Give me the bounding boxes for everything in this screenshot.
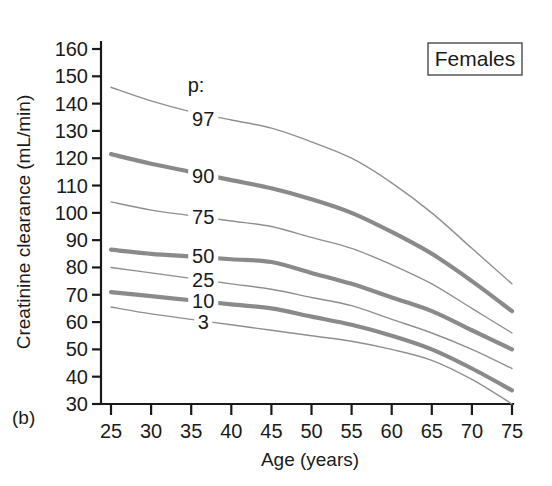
- x-tick-label: 25: [100, 420, 122, 442]
- y-tick-label: 110: [56, 175, 88, 197]
- y-tick-label: 50: [66, 338, 88, 360]
- x-axis-ticks: 2530354045505560657075: [100, 404, 523, 442]
- y-tick-label: 70: [66, 284, 88, 306]
- x-axis-title: Age (years): [261, 449, 359, 470]
- x-tick-label: 65: [421, 420, 443, 442]
- creatinine-clearance-chart: Creatinine clearance (mL/min) Age (years…: [0, 0, 552, 486]
- percentile-label-3: 3: [198, 311, 209, 333]
- y-tick-label: 100: [55, 202, 88, 224]
- x-tick-label: 45: [260, 420, 282, 442]
- percentile-label-50: 50: [192, 245, 214, 267]
- x-tick-label: 75: [501, 420, 523, 442]
- y-tick-label: 120: [55, 147, 88, 169]
- group-box-label: Females: [435, 47, 516, 70]
- y-tick-label: 60: [66, 311, 88, 333]
- x-tick-label: 30: [140, 420, 162, 442]
- percentile-label-90: 90: [192, 165, 214, 187]
- y-tick-label: 80: [66, 256, 88, 278]
- percentile-label-10: 10: [192, 290, 214, 312]
- y-tick-label: 30: [66, 393, 88, 415]
- percentile-header-label: p:: [188, 74, 205, 96]
- percentile-curves: [111, 87, 512, 404]
- x-tick-label: 55: [340, 420, 362, 442]
- panel-label: (b): [12, 407, 35, 428]
- y-tick-label: 130: [55, 120, 88, 142]
- percentile-curve-labels: 9790755025103: [188, 106, 218, 333]
- y-tick-label: 160: [55, 38, 88, 60]
- percentile-label-97: 97: [192, 108, 214, 130]
- y-tick-label: 90: [66, 229, 88, 251]
- y-tick-label: 150: [55, 65, 88, 87]
- percentile-label-75: 75: [192, 206, 214, 228]
- y-axis-ticks: 30405060708090100110120130140150160: [55, 38, 101, 415]
- percentile-curve-90: [111, 154, 512, 311]
- x-tick-label: 40: [220, 420, 242, 442]
- x-tick-label: 60: [381, 420, 403, 442]
- y-axis-title: Creatinine clearance (mL/min): [13, 95, 34, 350]
- x-tick-label: 35: [180, 420, 202, 442]
- x-tick-label: 50: [300, 420, 322, 442]
- y-tick-label: 40: [66, 366, 88, 388]
- group-box-females: Females: [428, 43, 522, 75]
- y-tick-label: 140: [55, 93, 88, 115]
- x-tick-label: 70: [461, 420, 483, 442]
- figure-panel-b: Creatinine clearance (mL/min) Age (years…: [0, 0, 552, 486]
